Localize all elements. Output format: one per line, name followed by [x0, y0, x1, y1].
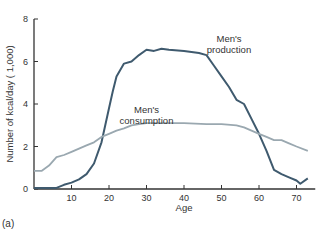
- y-tick-label: 0: [23, 184, 28, 194]
- y-axis-title: Number of kcal/day ( 1,000): [4, 45, 15, 162]
- x-axis-title: Age: [176, 202, 193, 213]
- series-line: [34, 123, 308, 171]
- annotations: Men'sproductionMen'sconsumption: [120, 33, 252, 125]
- x-tick-label: 10: [66, 193, 76, 203]
- series-annotation: Men'sproduction: [207, 33, 251, 55]
- x-tick-label: 60: [254, 193, 264, 203]
- y-tick-label: 6: [23, 57, 28, 67]
- y-tick-label: 4: [23, 99, 28, 109]
- y-axis: 02468: [23, 14, 38, 194]
- series-annotation: Men'sconsumption: [120, 104, 174, 126]
- x-tick-label: 70: [291, 193, 301, 203]
- y-tick-label: 2: [23, 142, 28, 152]
- x-tick-label: 30: [141, 193, 151, 203]
- panel-label: (a): [2, 218, 14, 229]
- x-axis: 10203040506070: [34, 185, 315, 203]
- x-tick-label: 50: [216, 193, 226, 203]
- y-tick-label: 8: [23, 14, 28, 24]
- x-tick-label: 20: [104, 193, 114, 203]
- line-chart: 02468 10203040506070 Men'sproductionMen'…: [0, 0, 330, 242]
